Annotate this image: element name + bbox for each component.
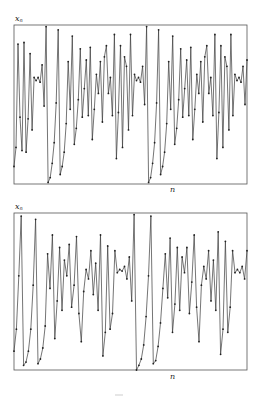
- data-point-marker: [112, 313, 114, 315]
- data-point-marker: [145, 316, 147, 318]
- data-point-marker: [114, 250, 116, 252]
- data-point-marker: [232, 250, 234, 252]
- data-point-marker: [140, 358, 142, 360]
- data-point-marker: [68, 244, 70, 246]
- data-point-marker: [172, 331, 174, 333]
- data-point-marker: [148, 275, 150, 277]
- data-point-marker: [100, 234, 102, 236]
- data-point-marker: [23, 364, 25, 366]
- data-point-marker: [54, 338, 56, 340]
- data-point-marker: [237, 269, 239, 271]
- data-point-marker: [49, 288, 51, 290]
- data-point-marker: [150, 215, 152, 217]
- data-point-marker: [213, 259, 215, 261]
- data-point-marker: [138, 364, 140, 366]
- data-point-marker: [131, 300, 133, 302]
- data-point-marker: [119, 269, 121, 271]
- data-point-marker: [167, 297, 169, 299]
- data-point-marker: [47, 253, 49, 255]
- data-point-marker: [13, 350, 15, 352]
- data-point-marker: [121, 270, 123, 272]
- data-point-marker: [136, 369, 138, 371]
- data-point-marker: [196, 306, 198, 308]
- data-point-marker: [92, 294, 94, 296]
- data-point-marker: [30, 328, 32, 330]
- data-point-marker: [128, 256, 130, 258]
- data-point-marker: [215, 309, 217, 311]
- data-point-marker: [52, 234, 54, 236]
- data-point-marker: [40, 358, 42, 360]
- data-point-marker: [210, 300, 212, 302]
- bottom-time-series-plot: [0, 0, 264, 401]
- data-point-marker: [203, 266, 205, 268]
- data-point-marker: [35, 218, 37, 220]
- data-point-marker: [225, 240, 227, 242]
- data-point-marker: [186, 247, 188, 249]
- data-point-marker: [32, 284, 34, 286]
- data-point-marker: [37, 363, 39, 365]
- data-point-marker: [143, 344, 145, 346]
- data-point-marker: [73, 284, 75, 286]
- bottom-x-axis-label: n: [170, 373, 175, 381]
- data-point-marker: [227, 331, 229, 333]
- data-point-marker: [59, 247, 61, 249]
- data-point-marker: [133, 214, 135, 216]
- data-point-marker: [88, 278, 90, 280]
- data-point-marker: [66, 275, 68, 277]
- data-point-marker: [222, 328, 224, 330]
- data-point-marker: [157, 346, 159, 348]
- data-point-marker: [208, 250, 210, 252]
- series-line: [14, 215, 247, 370]
- data-point-marker: [76, 236, 78, 238]
- data-point-marker: [181, 256, 183, 258]
- data-point-marker: [102, 355, 104, 357]
- data-point-marker: [109, 328, 111, 330]
- data-point-marker: [78, 313, 80, 315]
- data-point-marker: [198, 341, 200, 343]
- plot-frame: [14, 213, 247, 370]
- data-point-marker: [191, 281, 193, 283]
- data-point-marker: [176, 247, 178, 249]
- data-point-marker: [20, 215, 22, 217]
- data-point-marker: [71, 306, 73, 308]
- data-point-marker: [61, 309, 63, 311]
- data-point-marker: [160, 322, 162, 324]
- data-point-marker: [201, 284, 203, 286]
- data-point-marker: [107, 245, 109, 247]
- data-point-marker: [217, 231, 219, 233]
- data-point-marker: [97, 309, 99, 311]
- data-point-marker: [152, 363, 154, 365]
- data-point-marker: [179, 309, 181, 311]
- data-point-marker: [126, 278, 128, 280]
- data-point-marker: [234, 272, 236, 274]
- data-point-marker: [189, 313, 191, 315]
- data-point-marker: [18, 275, 20, 277]
- data-point-marker: [42, 347, 44, 349]
- data-point-marker: [164, 253, 166, 255]
- data-point-marker: [220, 353, 222, 355]
- data-point-marker: [162, 288, 164, 290]
- data-point-marker: [124, 266, 126, 268]
- data-point-marker: [205, 278, 207, 280]
- data-point-marker: [95, 262, 97, 264]
- data-point-marker: [239, 272, 241, 274]
- scan-smudge: [115, 394, 123, 396]
- figure: xn n xn n: [0, 0, 264, 401]
- data-point-marker: [28, 350, 30, 352]
- bottom-panel: xn n: [0, 0, 264, 401]
- data-point-marker: [44, 325, 46, 327]
- data-point-marker: [246, 250, 248, 252]
- data-point-marker: [116, 272, 118, 274]
- data-point-marker: [155, 360, 157, 362]
- data-point-marker: [80, 341, 82, 343]
- data-point-marker: [90, 250, 92, 252]
- data-point-marker: [229, 306, 231, 308]
- data-point-marker: [56, 300, 58, 302]
- data-point-marker: [104, 331, 106, 333]
- data-point-marker: [244, 278, 246, 280]
- data-point-marker: [241, 266, 243, 268]
- data-point-marker: [169, 237, 171, 239]
- data-point-marker: [193, 234, 195, 236]
- data-point-marker: [16, 328, 18, 330]
- data-point-marker: [85, 269, 87, 271]
